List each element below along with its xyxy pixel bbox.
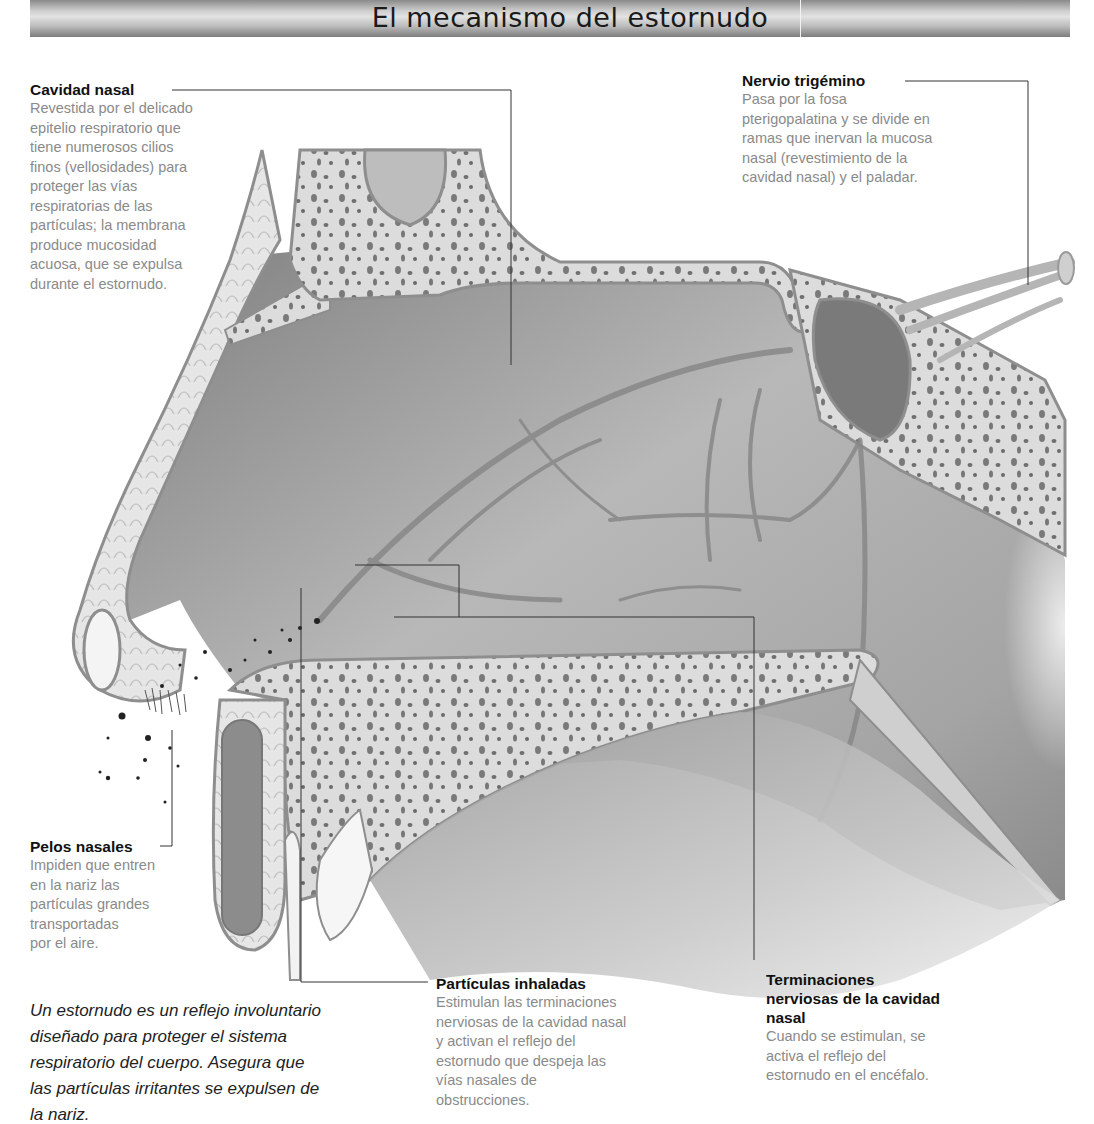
caption-line: las partículas irritantes se expulsen de: [30, 1076, 390, 1102]
label-line: estornudo en el encéfalo.: [766, 1066, 1006, 1086]
label-heading: Terminaciones: [766, 970, 1006, 989]
label-line: Pasa por la fosa: [742, 90, 1002, 110]
label-line: pterigopalatina y se divide en: [742, 110, 1002, 130]
label-line: durante el estornudo.: [30, 275, 260, 295]
label-terminaciones-nerviosas: Terminaciones nerviosas de la cavidad na…: [766, 970, 1006, 1086]
label-line: Estimulan las terminaciones: [436, 993, 676, 1013]
label-line: Cuando se estimulan, se: [766, 1027, 1006, 1047]
caption: Un estornudo es un reflejo involuntario …: [30, 998, 390, 1124]
label-line: vías nasales de: [436, 1071, 676, 1091]
label-line: Impiden que entren: [30, 856, 190, 876]
label-line: transportadas: [30, 915, 190, 935]
label-nervio-trigemino: Nervio trigémino Pasa por la fosa pterig…: [742, 71, 1002, 188]
label-line: proteger las vías: [30, 177, 260, 197]
label-line: y activan el reflejo del: [436, 1032, 676, 1052]
caption-line: Un estornudo es un reflejo involuntario: [30, 998, 390, 1024]
label-line: nerviosas de la cavidad nasal: [436, 1013, 676, 1033]
label-line: Revestida por el delicado: [30, 99, 260, 119]
label-line: en la nariz las: [30, 876, 190, 896]
label-line: cavidad nasal) y el paladar.: [742, 168, 1002, 188]
label-line: tiene numerosos cilios: [30, 138, 260, 158]
caption-line: respiratorio del cuerpo. Asegura que: [30, 1050, 390, 1076]
label-line: epitelio respiratorio que: [30, 119, 260, 139]
caption-line: diseñado para proteger el sistema: [30, 1024, 390, 1050]
label-cavidad-nasal: Cavidad nasal Revestida por el delicado …: [30, 80, 260, 294]
label-line: partículas; la membrana: [30, 216, 260, 236]
label-line: partículas grandes: [30, 895, 190, 915]
label-heading: nerviosas de la cavidad: [766, 989, 1006, 1008]
label-line: finos (vellosidades) para: [30, 158, 260, 178]
label-line: por el aire.: [30, 934, 190, 954]
label-line: obstrucciones.: [436, 1091, 676, 1111]
label-pelos-nasales: Pelos nasales Impiden que entren en la n…: [30, 837, 190, 954]
label-heading: Pelos nasales: [30, 837, 190, 856]
label-line: produce mucosidad: [30, 236, 260, 256]
label-line: ramas que inervan la mucosa: [742, 129, 1002, 149]
label-line: activa el reflejo del: [766, 1047, 1006, 1067]
label-heading: Nervio trigémino: [742, 71, 1002, 90]
label-line: nasal (revestimiento de la: [742, 149, 1002, 169]
label-particulas-inhaladas: Partículas inhaladas Estimulan las termi…: [436, 974, 676, 1110]
label-heading: Partículas inhaladas: [436, 974, 676, 993]
label-line: acuosa, que se expulsa: [30, 255, 260, 275]
label-heading: nasal: [766, 1008, 1006, 1027]
caption-line: la nariz.: [30, 1102, 390, 1124]
label-heading: Cavidad nasal: [30, 80, 260, 99]
label-line: estornudo que despeja las: [436, 1052, 676, 1072]
label-line: respiratorias de las: [30, 197, 260, 217]
